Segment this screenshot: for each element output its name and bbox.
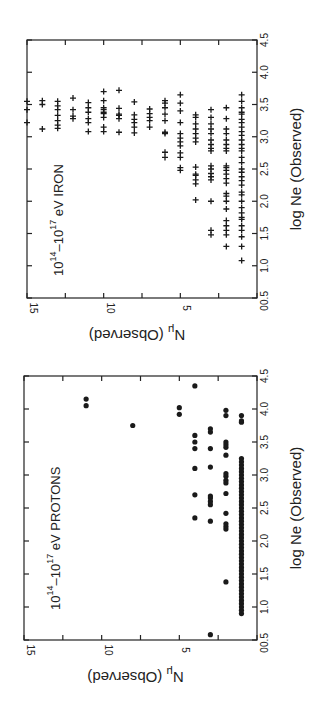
data-point-plus — [70, 107, 76, 113]
data-point-plus — [239, 223, 245, 229]
data-point-dot — [192, 515, 197, 520]
data-point-plus — [239, 160, 245, 166]
data-point-dot — [192, 492, 197, 497]
logne-tick-label: 2.0 — [259, 534, 270, 548]
data-point-dot — [223, 491, 228, 496]
panel-title: 1014–1017 eV PROTONS — [45, 466, 63, 610]
panel-title: 1014–1017 eV IRON — [48, 164, 66, 276]
data-point-plus — [239, 198, 245, 204]
data-point-plus — [177, 150, 183, 156]
data-point-plus — [223, 218, 229, 224]
nmu-tick-label: 10 — [103, 644, 114, 656]
data-point-plus — [85, 116, 91, 122]
data-point-plus — [55, 112, 61, 118]
data-point-dot — [177, 412, 182, 417]
logne-tick-label: 2.0 — [259, 194, 270, 208]
scatter-figure: 0510150.51.01.52.02.53.03.54.04.5log Ne … — [0, 0, 323, 712]
data-point-plus — [239, 98, 245, 104]
data-point-plus — [131, 99, 137, 105]
data-point-plus — [239, 258, 245, 264]
data-point-plus — [177, 100, 183, 106]
logne-tick-label: 2.5 — [259, 162, 270, 176]
logne-tick-label: 1.5 — [259, 226, 270, 240]
nmu-tick-label: 15 — [25, 644, 36, 656]
data-point-plus — [162, 149, 168, 155]
logne-tick-label: 0.5 — [259, 633, 270, 647]
data-point-dot — [223, 453, 228, 458]
data-point-plus — [147, 124, 153, 130]
data-point-dot — [84, 403, 89, 408]
proton-scatter-panel: 0510150.51.01.52.02.53.03.54.04.5log Ne … — [24, 369, 304, 686]
data-point-dot — [223, 511, 228, 516]
data-point-dot — [192, 446, 197, 451]
data-point-plus — [208, 121, 214, 127]
logne-tick-label: 3.5 — [259, 435, 270, 449]
data-point-dot — [192, 439, 197, 444]
data-point-plus — [177, 92, 183, 98]
data-point-plus — [116, 105, 122, 111]
data-point-plus — [223, 137, 229, 143]
data-point-plus — [101, 89, 107, 95]
data-point-plus — [239, 210, 245, 216]
data-point-plus — [239, 243, 245, 249]
data-point-plus — [239, 205, 245, 211]
data-point-dot — [223, 439, 228, 444]
data-point-plus — [55, 98, 61, 104]
data-point-plus — [85, 129, 91, 135]
data-point-plus — [116, 129, 122, 135]
data-point-plus — [70, 95, 76, 101]
data-point-plus — [116, 111, 122, 117]
data-point-dot — [223, 579, 228, 584]
nmu-tick-label: 15 — [28, 302, 39, 314]
data-point-plus — [239, 166, 245, 172]
data-point-plus — [101, 98, 107, 104]
logne-tick-label: 3.0 — [259, 129, 270, 143]
yaxis-label: Nμ (Observed) — [87, 666, 183, 686]
logne-tick-label: 0.5 — [259, 291, 270, 305]
logne-tick-label: 3.5 — [259, 97, 270, 111]
logne-tick-label: 1.0 — [259, 600, 270, 614]
data-point-plus — [24, 120, 30, 126]
logne-tick-label: 4.5 — [259, 369, 270, 383]
data-point-plus — [239, 92, 245, 98]
data-point-plus — [223, 223, 229, 229]
data-point-dot — [223, 471, 228, 476]
data-point-plus — [177, 120, 183, 126]
data-point-plus — [101, 124, 107, 130]
data-point-plus — [208, 198, 214, 204]
data-point-plus — [223, 105, 229, 111]
data-point-plus — [223, 116, 229, 122]
logne-tick-label: 4.5 — [259, 33, 270, 47]
data-point-plus — [208, 227, 214, 233]
data-point-plus — [24, 107, 30, 113]
data-point-plus — [85, 105, 91, 111]
data-point-plus — [208, 126, 214, 132]
logne-tick-label: 3.0 — [259, 468, 270, 482]
logne-tick-label: 1.0 — [259, 258, 270, 272]
nmu-tick-label: 5 — [181, 305, 192, 311]
data-point-plus — [131, 112, 137, 118]
data-point-plus — [208, 114, 214, 120]
data-point-plus — [208, 163, 214, 169]
data-point-plus — [162, 111, 168, 117]
data-point-plus — [208, 107, 214, 113]
data-point-plus — [239, 116, 245, 122]
data-point-dot — [223, 413, 228, 418]
data-point-plus — [55, 118, 61, 124]
data-point-dot — [192, 433, 197, 438]
data-point-plus — [208, 137, 214, 143]
data-point-dot — [177, 405, 182, 410]
xaxis-label: log Ne (Observed) — [287, 108, 304, 231]
data-point-plus — [116, 87, 122, 93]
nmu-tick-label: 10 — [105, 302, 116, 314]
data-point-plus — [239, 154, 245, 160]
data-point-plus — [131, 130, 137, 136]
data-point-dot — [192, 383, 197, 388]
data-point-dot — [239, 456, 244, 461]
data-point-plus — [193, 197, 199, 203]
data-point-plus — [147, 106, 153, 112]
data-point-plus — [177, 108, 183, 114]
data-point-dot — [208, 464, 213, 469]
yaxis-label: Nμ (Observed) — [89, 324, 185, 344]
data-point-plus — [24, 98, 30, 104]
